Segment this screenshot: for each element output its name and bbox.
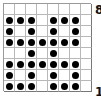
grid-cell[interactable]	[81, 48, 92, 59]
grid-cell[interactable]	[37, 15, 48, 26]
dot-piece-icon	[50, 50, 57, 57]
dot-piece-icon	[39, 61, 46, 68]
dot-piece-icon	[72, 28, 79, 35]
grid-cell[interactable]	[37, 70, 48, 81]
grid-cell[interactable]	[70, 59, 81, 70]
grid-cell[interactable]	[48, 37, 59, 48]
grid-cell[interactable]	[81, 26, 92, 37]
grid-cell[interactable]	[15, 81, 26, 92]
dot-piece-icon	[50, 39, 57, 46]
dot-piece-icon	[61, 39, 68, 46]
grid-cell[interactable]	[70, 37, 81, 48]
grid-cell[interactable]	[26, 59, 37, 70]
grid-cell[interactable]	[48, 15, 59, 26]
grid-cell[interactable]	[15, 4, 26, 15]
grid-cell[interactable]	[26, 70, 37, 81]
grid-cell[interactable]	[4, 26, 15, 37]
grid-cell[interactable]	[15, 37, 26, 48]
grid-cell[interactable]	[81, 37, 92, 48]
grid-cell[interactable]	[70, 48, 81, 59]
grid-cell[interactable]	[81, 70, 92, 81]
dot-piece-icon	[6, 39, 13, 46]
dot-piece-icon	[61, 61, 68, 68]
dot-piece-icon	[28, 61, 35, 68]
grid-cell[interactable]	[4, 70, 15, 81]
dot-piece-icon	[50, 61, 57, 68]
grid-cell[interactable]	[48, 59, 59, 70]
grid-cell[interactable]	[37, 81, 48, 92]
grid-cell[interactable]	[59, 15, 70, 26]
grid-cell[interactable]	[4, 81, 15, 92]
grid-cell[interactable]	[59, 26, 70, 37]
dot-piece-icon	[6, 17, 13, 24]
grid-cell[interactable]	[26, 26, 37, 37]
grid-cell[interactable]	[59, 4, 70, 15]
dot-grid-board	[3, 3, 91, 91]
dot-piece-icon	[61, 17, 68, 24]
dot-piece-icon	[28, 17, 35, 24]
grid-cell[interactable]	[15, 15, 26, 26]
dot-piece-icon	[72, 72, 79, 79]
dot-piece-icon	[50, 83, 57, 90]
grid-cell[interactable]	[37, 37, 48, 48]
grid-cell[interactable]	[4, 37, 15, 48]
dot-piece-icon	[17, 61, 24, 68]
grid-cell[interactable]	[70, 4, 81, 15]
dot-piece-icon	[6, 28, 13, 35]
dot-piece-icon	[50, 17, 57, 24]
dot-piece-icon	[61, 83, 68, 90]
grid-cell[interactable]	[15, 48, 26, 59]
dot-piece-icon	[6, 72, 13, 79]
dot-piece-icon	[39, 39, 46, 46]
dot-piece-icon	[28, 28, 35, 35]
grid-cell[interactable]	[59, 70, 70, 81]
grid-cell[interactable]	[26, 48, 37, 59]
rank-label-bottom: 1	[95, 86, 101, 98]
dot-piece-icon	[50, 72, 57, 79]
grid-cell[interactable]	[26, 37, 37, 48]
grid-cell[interactable]	[4, 4, 15, 15]
grid-cell[interactable]	[59, 48, 70, 59]
dot-piece-icon	[28, 72, 35, 79]
grid-cell[interactable]	[81, 81, 92, 92]
grid-cell[interactable]	[15, 26, 26, 37]
grid-cell[interactable]	[26, 15, 37, 26]
grid-cell[interactable]	[15, 70, 26, 81]
dot-piece-icon	[72, 39, 79, 46]
grid-cell[interactable]	[4, 48, 15, 59]
grid-cell[interactable]	[37, 26, 48, 37]
grid-cell[interactable]	[59, 59, 70, 70]
grid-cell[interactable]	[70, 26, 81, 37]
dot-piece-icon	[28, 83, 35, 90]
grid-cell[interactable]	[48, 48, 59, 59]
grid-cell[interactable]	[4, 59, 15, 70]
grid-cell[interactable]	[59, 37, 70, 48]
dot-piece-icon	[6, 83, 13, 90]
grid-cell[interactable]	[37, 48, 48, 59]
grid-cell[interactable]	[81, 4, 92, 15]
grid-cell[interactable]	[59, 81, 70, 92]
grid-cell[interactable]	[81, 59, 92, 70]
grid-cell[interactable]	[48, 70, 59, 81]
grid-cell[interactable]	[70, 70, 81, 81]
grid-cell[interactable]	[48, 81, 59, 92]
dot-piece-icon	[17, 39, 24, 46]
dot-piece-icon	[28, 39, 35, 46]
grid-cell[interactable]	[37, 4, 48, 15]
grid-cell[interactable]	[48, 4, 59, 15]
dot-piece-icon	[17, 83, 24, 90]
rank-label-top: 8	[95, 4, 101, 16]
dot-piece-icon	[72, 61, 79, 68]
grid-cell[interactable]	[26, 4, 37, 15]
dot-piece-icon	[28, 50, 35, 57]
dot-piece-icon	[17, 17, 24, 24]
grid-cell[interactable]	[81, 15, 92, 26]
grid-cell[interactable]	[70, 15, 81, 26]
grid-cell[interactable]	[26, 81, 37, 92]
grid-cell[interactable]	[15, 59, 26, 70]
dot-piece-icon	[50, 28, 57, 35]
grid-cell[interactable]	[70, 81, 81, 92]
grid-cell[interactable]	[37, 59, 48, 70]
grid-cell[interactable]	[4, 15, 15, 26]
grid-cell[interactable]	[48, 26, 59, 37]
